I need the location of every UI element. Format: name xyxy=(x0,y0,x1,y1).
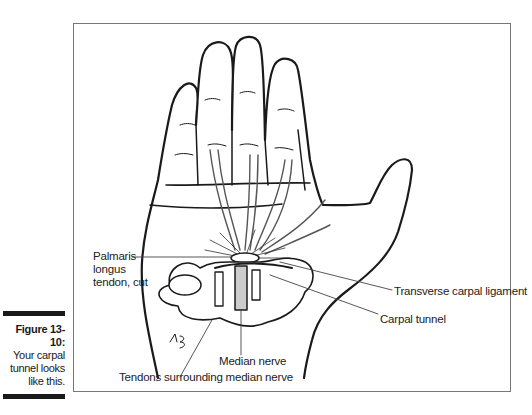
label-palmaris: Palmaris longus tendon, cut xyxy=(93,250,148,289)
label-median-nerve: Median nerve xyxy=(219,355,286,368)
label-transverse-carpal-ligament: Transverse carpal ligament xyxy=(394,285,527,298)
label-line: tendon, cut xyxy=(93,276,148,289)
label-carpal-tunnel: Carpal tunnel xyxy=(380,313,446,326)
label-line: longus xyxy=(93,263,148,276)
label-line: Palmaris xyxy=(93,250,148,263)
label-tendons: Tendons surrounding median nerve xyxy=(119,371,293,384)
hand-illustration xyxy=(0,0,532,415)
